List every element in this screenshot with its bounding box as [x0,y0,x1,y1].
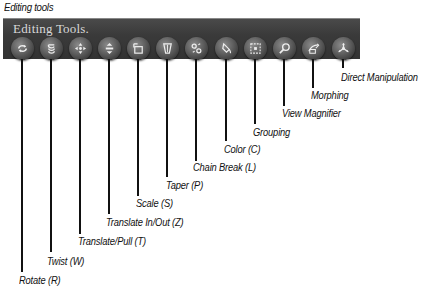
leader-line [108,59,110,214]
direct-manipulation-button[interactable] [332,37,355,60]
leader-line [312,59,314,88]
leader-line [283,59,285,106]
leader-line [50,59,52,252]
grouping-button[interactable] [244,37,267,60]
chain-break-button[interactable] [185,37,208,60]
color-icon [220,42,233,55]
tool-label: Morphing [311,89,349,101]
tool-label: Scale (S) [136,197,173,209]
twist-button[interactable] [40,37,63,60]
view-magnifier-button[interactable] [273,37,296,60]
morphing-icon [307,42,320,55]
leader-line [225,59,227,141]
direct-manipulation-icon [337,42,350,55]
leader-line [21,59,23,272]
tool-label: View Magnifier [282,107,341,119]
tool-label: Twist (W) [47,255,84,267]
tool-label: Chain Break (L) [193,161,256,173]
translate-pull-icon [74,42,87,55]
taper-icon [161,42,174,55]
morphing-button[interactable] [302,37,325,60]
tool-label: Direct Manipulation [341,71,418,83]
scale-button[interactable] [127,37,150,60]
tool-label: Translate/Pull (T) [78,235,146,247]
tool-label: Translate In/Out (Z) [106,216,183,228]
palette-title: Editing Tools. [13,21,89,37]
scale-icon [132,42,145,55]
magnifier-icon [278,42,291,55]
taper-button[interactable] [156,37,179,60]
tool-label: Rotate (R) [19,274,60,286]
editing-tools-palette: Editing Tools. [3,18,360,59]
tool-label: Grouping [253,126,290,138]
rotate-icon [16,42,29,55]
chain-break-icon [190,42,203,55]
twist-icon [45,42,58,55]
leader-line [342,59,344,68]
leader-line [79,59,81,234]
leader-line [195,59,197,161]
tool-label: Taper (P) [166,179,203,191]
rotate-button[interactable] [11,37,34,60]
color-button[interactable] [215,37,238,60]
figure-caption: Editing tools [4,1,53,13]
grouping-icon [249,42,262,55]
translate-pull-button[interactable] [69,37,92,60]
leader-line [137,59,139,196]
leader-line [166,59,168,177]
leader-line [254,59,256,124]
tool-label: Color (C) [224,143,260,155]
translate-in-out-icon [103,42,116,55]
translate-in-out-button[interactable] [98,37,121,60]
